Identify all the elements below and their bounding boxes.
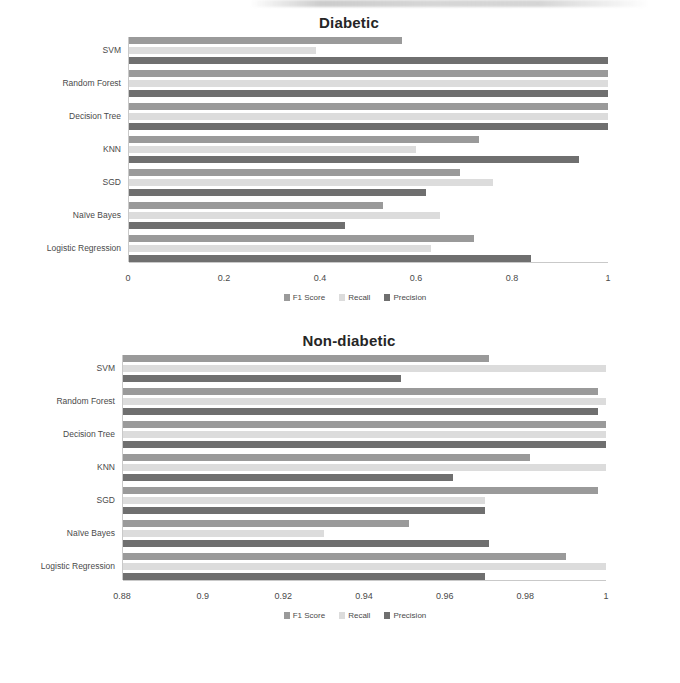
legend-label: Recall [348, 293, 370, 302]
bar-row [123, 563, 606, 570]
bar-row [123, 388, 606, 395]
bar-recall [123, 497, 485, 504]
legend-item[interactable]: Recall [339, 611, 370, 620]
legend-swatch-precision-icon [384, 294, 390, 301]
x-tick-label: 0.94 [355, 591, 373, 601]
bar-recall [129, 146, 416, 153]
bar-precision [123, 408, 598, 415]
legend-label: Recall [348, 611, 370, 620]
legend-item[interactable]: Recall [339, 293, 370, 302]
legend-swatch-f1-icon [284, 612, 290, 619]
category-label: Naïve Bayes [73, 211, 129, 220]
bar-f1 [129, 70, 608, 77]
x-tick-label: 0.88 [113, 591, 131, 601]
bar-f1 [129, 202, 383, 209]
legend-label: F1 Score [293, 611, 325, 620]
bar-f1 [123, 487, 598, 494]
scan-artifact [250, 0, 650, 7]
category-label: Naïve Bayes [67, 529, 123, 538]
bar-precision [123, 441, 606, 448]
bar-row [129, 113, 608, 120]
bar-group: Logistic Regression [129, 235, 608, 262]
x-tick-label: 0.96 [436, 591, 454, 601]
bar-row [123, 573, 606, 580]
x-tick-label: 0.6 [410, 273, 423, 283]
chart-diabetic: Diabetic SVMRandom ForestDecision TreeKN… [0, 14, 680, 344]
bar-group: KNN [129, 136, 608, 163]
x-tick-label: 0.8 [506, 273, 519, 283]
bar-group: Decision Tree [129, 103, 608, 130]
bar-row [129, 222, 608, 229]
legend-label: Precision [393, 611, 426, 620]
x-axis-line [129, 262, 608, 263]
bar-recall [123, 365, 606, 372]
bar-group: KNN [123, 454, 606, 481]
bar-precision [129, 90, 608, 97]
bar-recall [123, 530, 324, 537]
bar-row [129, 47, 608, 54]
legend-swatch-recall-icon [339, 294, 345, 301]
bar-group: Random Forest [129, 70, 608, 97]
category-label: SVM [97, 364, 123, 373]
bar-f1 [129, 169, 460, 176]
x-tick-label: 0.4 [314, 273, 327, 283]
bar-row [129, 189, 608, 196]
bar-row [129, 255, 608, 262]
bar-recall [129, 80, 608, 87]
bar-row [129, 146, 608, 153]
bars-container-nondiabetic: SVMRandom ForestDecision TreeKNNSGDNaïve… [122, 355, 606, 580]
category-label: Logistic Regression [47, 244, 129, 253]
bar-row [129, 37, 608, 44]
category-label: SGD [103, 178, 129, 187]
bar-precision [123, 540, 489, 547]
legend-swatch-precision-icon [384, 612, 390, 619]
bar-row [129, 212, 608, 219]
bar-row [129, 202, 608, 209]
bar-group: Decision Tree [123, 421, 606, 448]
bar-row [123, 454, 606, 461]
bar-row [129, 103, 608, 110]
legend-nondiabetic: F1 ScoreRecallPrecision [0, 611, 680, 620]
bar-row [123, 553, 606, 560]
bar-row [123, 464, 606, 471]
bar-precision [123, 375, 401, 382]
bar-recall [129, 212, 440, 219]
legend-item[interactable]: Precision [384, 611, 426, 620]
bar-row [129, 156, 608, 163]
bar-group: SGD [129, 169, 608, 196]
bar-recall [129, 245, 431, 252]
chart-title-nondiabetic: Non-diabetic [0, 332, 680, 349]
bar-precision [123, 507, 485, 514]
bar-group: Naïve Bayes [123, 520, 606, 547]
bar-row [123, 507, 606, 514]
bar-group: SVM [129, 37, 608, 64]
bar-row [123, 398, 606, 405]
bar-group: SGD [123, 487, 606, 514]
plot-area-diabetic: SVMRandom ForestDecision TreeKNNSGDNaïve… [0, 37, 680, 289]
category-label: Decision Tree [63, 430, 123, 439]
legend-item[interactable]: Precision [384, 293, 426, 302]
bar-row [129, 179, 608, 186]
x-tick-label: 0.9 [196, 591, 209, 601]
bar-precision [123, 474, 453, 481]
legend-item[interactable]: F1 Score [284, 611, 325, 620]
bar-row [123, 530, 606, 537]
legend-item[interactable]: F1 Score [284, 293, 325, 302]
bars-container-diabetic: SVMRandom ForestDecision TreeKNNSGDNaïve… [128, 37, 608, 262]
category-label: SGD [97, 496, 123, 505]
bar-row [123, 487, 606, 494]
bar-row [123, 355, 606, 362]
bar-precision [129, 156, 579, 163]
bar-row [129, 90, 608, 97]
bar-row [123, 520, 606, 527]
bar-row [123, 474, 606, 481]
bar-row [123, 421, 606, 428]
bar-f1 [123, 355, 489, 362]
bar-f1 [123, 388, 598, 395]
bar-row [129, 80, 608, 87]
plot-area-nondiabetic: SVMRandom ForestDecision TreeKNNSGDNaïve… [0, 355, 680, 607]
bar-row [129, 70, 608, 77]
bar-recall [129, 113, 608, 120]
x-axis-line [123, 580, 606, 581]
bar-recall [123, 431, 606, 438]
